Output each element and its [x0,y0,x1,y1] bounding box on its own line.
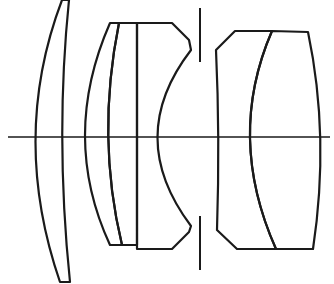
front-meniscus-element [35,0,70,282]
rear-group-element-b [250,31,320,249]
rear-group-element-a [216,31,276,249]
second-group-element-b [108,23,137,245]
second-group-element-a [85,23,122,245]
second-group-element-c [137,23,191,249]
lens-diagram [0,0,334,284]
lens-elements [35,0,320,282]
